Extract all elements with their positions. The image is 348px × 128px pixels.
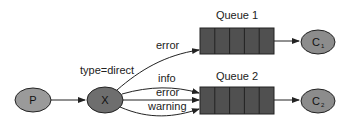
binding-label-warning: warning bbox=[147, 100, 187, 112]
queue-1-title: Queue 1 bbox=[216, 9, 258, 21]
binding-label-error-1: error bbox=[156, 39, 180, 51]
exchange-label: X bbox=[101, 94, 109, 106]
binding-label-error-2: error bbox=[156, 86, 180, 98]
exchange-node: X bbox=[87, 87, 123, 113]
exchange-type-label: type=direct bbox=[80, 64, 134, 76]
producer-node: P bbox=[15, 88, 51, 112]
queue-2-box bbox=[200, 87, 274, 114]
producer-label: P bbox=[29, 94, 36, 106]
binding-label-info: info bbox=[158, 72, 176, 84]
consumer-1-label: C bbox=[312, 36, 320, 48]
consumer-2-label: C bbox=[312, 95, 320, 107]
queue-2-title: Queue 2 bbox=[216, 70, 258, 82]
consumer-2-node: C 2 bbox=[301, 89, 335, 113]
direct-exchange-diagram: error info error warning type=direct P X… bbox=[0, 0, 348, 128]
queue-1-box bbox=[200, 28, 274, 54]
consumer-1-node: C 1 bbox=[301, 30, 335, 54]
